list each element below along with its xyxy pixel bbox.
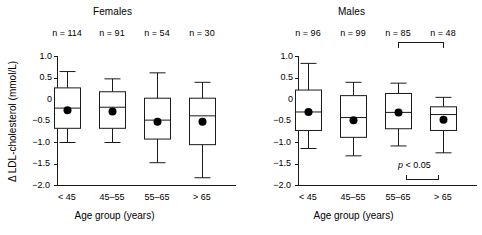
figure-boxplot-ldl-cholesterol: Females n = 114 n = 91 n = 54 n = 30 Δ L… bbox=[0, 0, 482, 235]
p-value-annotation: p < 0.05 bbox=[398, 160, 431, 170]
males-box-2-mean-marker bbox=[395, 108, 403, 116]
x-axis-title-females: Age group (years) bbox=[0, 210, 235, 221]
panel-females: Females n = 114 n = 91 n = 54 n = 30 Δ L… bbox=[0, 0, 241, 235]
males-box-3-mean-marker bbox=[440, 116, 448, 124]
x-axis-title-males: Age group (years) bbox=[233, 210, 474, 221]
x-tick-label-males-1: 45–55 bbox=[330, 192, 376, 202]
males-box-0-mean-marker bbox=[305, 108, 313, 116]
x-tick-label-females-2: 55–65 bbox=[134, 192, 180, 202]
x-tick-label-females-3: > 65 bbox=[179, 192, 225, 202]
p-value-threshold: < 0.05 bbox=[403, 160, 431, 170]
females-box-1-mean-marker bbox=[109, 108, 117, 116]
females-box-0-mean-marker bbox=[64, 106, 72, 114]
x-tick-label-males-0: < 45 bbox=[285, 192, 331, 202]
males-box-1-mean-marker bbox=[350, 116, 358, 124]
x-tick-label-males-3: > 65 bbox=[420, 192, 466, 202]
x-tick-label-males-2: 55–65 bbox=[375, 192, 421, 202]
x-tick-label-females-0: < 45 bbox=[44, 192, 90, 202]
x-tick-label-females-1: 45–55 bbox=[89, 192, 135, 202]
females-box-3-mean-marker bbox=[199, 118, 207, 126]
females-box-2-mean-marker bbox=[154, 118, 162, 126]
panel-males: Males n = 96 n = 99 n = 85 n = 48 1.0 0.… bbox=[241, 0, 482, 235]
